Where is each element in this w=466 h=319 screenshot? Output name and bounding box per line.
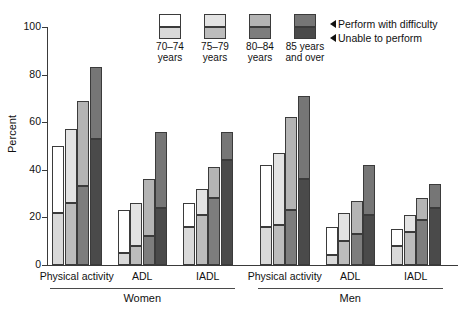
x-category-label: IADL	[371, 270, 461, 282]
bar	[391, 229, 403, 265]
bar	[155, 132, 167, 265]
legend-item: 85 yearsand over	[283, 14, 327, 63]
bar-segment-difficulty	[429, 184, 441, 208]
bar-segment-difficulty	[65, 129, 77, 203]
legend-swatch-difficulty	[204, 14, 226, 27]
panel-rule	[50, 288, 235, 289]
bar-segment-unable	[65, 203, 77, 265]
bar-segment-unable	[273, 225, 285, 265]
y-tick-label-text: 80	[1, 69, 41, 79]
y-tick-mark	[42, 170, 47, 171]
legend-swatch-difficulty	[159, 14, 181, 27]
legend-swatch	[159, 14, 181, 39]
bar-segment-difficulty	[285, 117, 297, 210]
bar	[404, 215, 416, 265]
bar-segment-difficulty	[118, 210, 130, 253]
bar-segment-unable	[298, 179, 310, 265]
bar	[273, 153, 285, 265]
bar-segment-difficulty	[404, 215, 416, 232]
legend-swatch-unable	[159, 27, 181, 40]
bar-segment-difficulty	[351, 201, 363, 234]
bar-segment-difficulty	[338, 213, 350, 242]
bar-segment-difficulty	[155, 132, 167, 208]
bar	[196, 189, 208, 265]
bar	[363, 165, 375, 265]
bar-segment-difficulty	[391, 229, 403, 246]
x-axis-line	[47, 265, 458, 266]
bar	[118, 210, 130, 265]
legend-item: 80–84years	[238, 14, 282, 63]
legend-label-line2: years	[148, 52, 192, 63]
y-tick-label: 100	[0, 21, 41, 31]
legend-swatch-unable	[249, 27, 271, 40]
bar	[285, 117, 297, 265]
bar-segment-unable	[416, 220, 428, 265]
legend-label-line1: 80–84	[238, 41, 282, 52]
bar-segment-difficulty	[196, 189, 208, 215]
bar-segment-difficulty	[183, 203, 195, 227]
legend-label-line2: and over	[283, 52, 327, 63]
bar-segment-difficulty	[208, 167, 220, 198]
y-tick-mark	[42, 265, 47, 266]
bar-segment-unable	[221, 160, 233, 265]
bar	[260, 165, 272, 265]
panel-label: Women	[50, 292, 235, 305]
y-tick-label-text: 20	[1, 211, 41, 221]
legend-label-line2: years	[193, 52, 237, 63]
legend-label-line2: years	[238, 52, 282, 63]
bar-segment-unable	[404, 232, 416, 265]
legend-swatch	[294, 14, 316, 39]
bar	[429, 184, 441, 265]
bar-segment-difficulty	[326, 227, 338, 256]
bar-segment-unable	[338, 241, 350, 265]
bar-segment-unable	[326, 255, 338, 265]
legend-item: 75–79years	[193, 14, 237, 63]
legend-item: 70–74years	[148, 14, 192, 63]
bar	[416, 198, 428, 265]
bar	[338, 213, 350, 265]
legend-annotations: Perform with difficulty Unable to perfor…	[330, 17, 466, 45]
annotation-label: Perform with difficulty	[338, 18, 438, 31]
bar-segment-unable	[52, 213, 64, 265]
bar-segment-unable	[429, 208, 441, 265]
bar-segment-difficulty	[130, 203, 142, 246]
left-triangle-icon	[330, 20, 336, 28]
bar-segment-difficulty	[273, 153, 285, 224]
legend-swatch-unable	[294, 27, 316, 40]
bar-segment-unable	[77, 186, 89, 265]
bar	[143, 179, 155, 265]
bar	[65, 129, 77, 265]
bar-segment-difficulty	[363, 165, 375, 215]
panel-rule	[258, 288, 443, 289]
legend-swatch-unable	[204, 27, 226, 40]
bar	[221, 132, 233, 265]
bar-segment-unable	[196, 215, 208, 265]
bar-segment-difficulty	[260, 165, 272, 227]
legend-swatch-difficulty	[249, 14, 271, 27]
y-tick-mark	[42, 217, 47, 218]
y-axis-title: Percent	[6, 94, 18, 174]
y-tick-mark	[42, 27, 47, 28]
bar	[183, 203, 195, 265]
bar-segment-difficulty	[416, 198, 428, 219]
legend-label-line1: 75–79	[193, 41, 237, 52]
bar-segment-unable	[351, 234, 363, 265]
legend-label-line1: 70–74	[148, 41, 192, 52]
bar-segment-difficulty	[143, 179, 155, 236]
annotation-label: Unable to perform	[338, 32, 422, 45]
left-triangle-icon	[330, 34, 336, 42]
bar	[208, 167, 220, 265]
legend-label-line1: 85 years	[283, 41, 327, 52]
legend-swatch-difficulty	[294, 14, 316, 27]
bar-segment-unable	[143, 236, 155, 265]
legend-swatch	[204, 14, 226, 39]
bar-segment-unable	[155, 208, 167, 265]
bar	[351, 201, 363, 265]
bar-segment-difficulty	[77, 101, 89, 187]
bar-segment-difficulty	[52, 146, 64, 213]
bar	[90, 67, 102, 265]
bar-segment-unable	[260, 227, 272, 265]
bar-segment-difficulty	[298, 96, 310, 179]
bar	[298, 96, 310, 265]
bar-segment-unable	[130, 246, 142, 265]
